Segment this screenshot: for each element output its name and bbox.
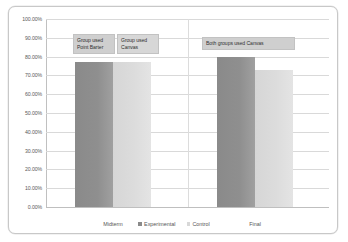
annotation-line-1: Group used bbox=[121, 37, 155, 44]
legend-swatch-icon-experimental bbox=[138, 222, 141, 225]
annotation-line-1: Both groups used Canvas bbox=[206, 40, 291, 47]
ytick-label-20: 20.00% bbox=[25, 166, 42, 172]
ytick-label-10: 10.00% bbox=[25, 185, 42, 191]
ytick-label-50: 50.00% bbox=[25, 110, 42, 116]
legend-swatch-icon-control bbox=[187, 222, 190, 225]
gridline-0: 0.00% bbox=[46, 207, 329, 208]
annotation-line-2: Canvas bbox=[121, 44, 155, 51]
bar-final-control[interactable] bbox=[255, 70, 293, 207]
ytick-label-70: 70.00% bbox=[25, 72, 42, 78]
legend-item-experimental[interactable]: Experimental bbox=[138, 221, 175, 227]
annotation-line-2: Point Barter bbox=[77, 44, 111, 51]
ytick-label-90: 90.00% bbox=[25, 35, 42, 41]
ytick-label-30: 30.00% bbox=[25, 148, 42, 154]
ytick-label-40: 40.00% bbox=[25, 129, 42, 135]
ytick-label-100: 100.00% bbox=[22, 16, 42, 22]
legend-item-control[interactable]: Control bbox=[187, 221, 210, 227]
legend-label-experimental: Experimental bbox=[144, 221, 175, 227]
ytick-label-60: 60.00% bbox=[25, 91, 42, 97]
legend-label-control: Control bbox=[192, 221, 209, 227]
ytick-label-0: 0.00% bbox=[28, 204, 42, 210]
bar-final-experimental[interactable] bbox=[217, 57, 255, 207]
chart-legend: Experimental Control bbox=[9, 221, 339, 227]
category-separator bbox=[188, 19, 189, 207]
annotation-final-both: Both groups used Canvas bbox=[202, 37, 295, 50]
bar-midterm-experimental[interactable] bbox=[75, 62, 113, 207]
annotation-midterm-experimental: Group used Point Barter bbox=[73, 34, 115, 54]
annotation-midterm-control: Group used Canvas bbox=[117, 34, 159, 54]
bar-midterm-control[interactable] bbox=[113, 62, 151, 207]
chart-frame: 100.00% 90.00% 80.00% 70.00% 60.00% 50.0… bbox=[8, 6, 338, 234]
annotation-line-1: Group used bbox=[77, 37, 111, 44]
ytick-label-80: 80.00% bbox=[25, 54, 42, 60]
